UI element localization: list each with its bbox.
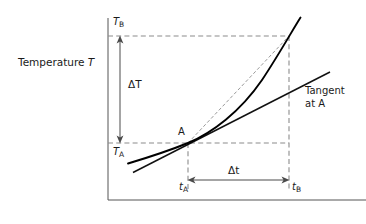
y-tick-label-ta: TA <box>113 146 124 159</box>
tangent-annotation: Tangentat A <box>305 84 345 110</box>
y-tick-tb-subscript: B <box>119 20 124 29</box>
x-tick-label-ta: tA <box>179 181 188 194</box>
x-tick-tb-subscript: B <box>296 185 301 194</box>
y-tick-ta-subscript: A <box>119 150 124 159</box>
y-axis-title-prefix: Temperature <box>18 56 88 68</box>
temperature-curve <box>128 18 301 164</box>
y-axis-title: Temperature T <box>18 56 94 68</box>
tangent-line-at-a <box>133 72 330 173</box>
delta-time-arrow <box>188 177 290 184</box>
tangent-annotation-line1: Tangent <box>305 85 345 96</box>
chord-line-a-to-b <box>188 36 289 143</box>
point-a-label: A <box>178 126 185 137</box>
delta-temperature-label: ΔT <box>128 78 142 90</box>
y-tick-label-tb: TB <box>113 16 124 29</box>
x-tick-ta-subscript: A <box>183 185 188 194</box>
y-axis-title-symbol: T <box>88 56 94 68</box>
delta-time-label: Δt <box>228 164 239 176</box>
x-tick-label-tb: tB <box>292 181 301 194</box>
tangent-annotation-line2: at A <box>305 98 325 109</box>
delta-t-temperature-arrow <box>117 36 124 144</box>
